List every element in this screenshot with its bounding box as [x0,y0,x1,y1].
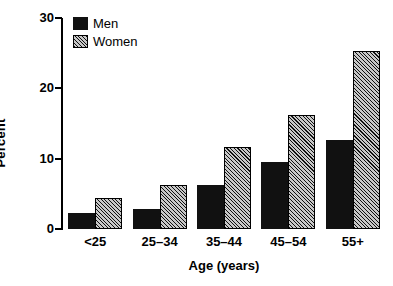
bar-men [326,140,353,229]
x-axis-tick-labels: <2525–3435–4445–5455+ [63,234,385,256]
y-tick-mark [55,158,62,160]
y-tick-mark [55,87,62,89]
legend-swatch-men [73,17,88,30]
y-tick-label: 0 [14,222,54,235]
legend-label: Men [93,17,118,30]
y-tick-label: 30 [14,11,54,24]
bar-men [133,209,160,229]
y-axis-tick-labels: 0102030 [14,0,54,286]
y-tick-mark [55,228,62,230]
y-tick-label: 10 [14,152,54,165]
bar-women [160,185,187,229]
bar-men [68,213,95,229]
bar-men [261,162,288,229]
bar-group [261,18,315,229]
x-tick-label: 25–34 [127,234,191,250]
bar-men [197,185,224,229]
bar-chart: Percent 0102030 <2525–3435–4445–5455+ Ag… [0,0,393,286]
x-tick-label: 35–44 [192,234,256,250]
bar-group [197,18,251,229]
bar-women [353,51,380,229]
x-tick-label: 45–54 [256,234,320,250]
bar-women [95,198,122,229]
legend: MenWomen [73,15,138,51]
legend-swatch-women [73,35,88,48]
legend-entry: Men [73,15,138,31]
bar-women [224,147,251,229]
x-tick-label: <25 [63,234,127,250]
y-tick-mark [55,17,62,19]
x-tick-label: 55+ [321,234,385,250]
legend-label: Women [93,35,138,48]
y-tick-label: 20 [14,81,54,94]
x-axis-title: Age (years) [63,258,385,273]
legend-entry: Women [73,33,138,49]
bar-group [326,18,380,229]
bar-women [288,115,315,229]
bar-group [133,18,187,229]
